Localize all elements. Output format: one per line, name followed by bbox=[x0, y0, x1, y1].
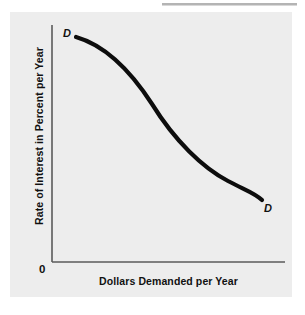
x-axis-title: Dollars Demanded per Year bbox=[52, 275, 285, 287]
origin-label: 0 bbox=[39, 263, 45, 275]
curve-end-label: D bbox=[264, 202, 272, 214]
demand-curve bbox=[76, 37, 262, 200]
curve-start-label: D bbox=[63, 27, 71, 39]
plot-area bbox=[0, 0, 305, 315]
figure-root: Rate of Interest in Percent per Year Dol… bbox=[0, 0, 305, 315]
y-axis-title: Rate of Interest in Percent per Year bbox=[33, 36, 45, 236]
